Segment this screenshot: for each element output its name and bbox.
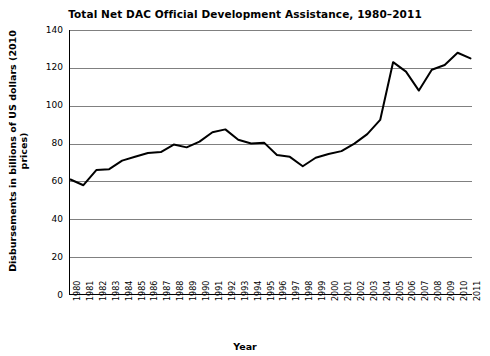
x-tick-label: 1991 [216, 281, 224, 301]
x-tick-label: 2010 [461, 281, 469, 301]
x-tick-label: 1983 [113, 281, 121, 301]
y-tick-label: 40 [27, 215, 63, 224]
y-tick-label: 20 [27, 253, 63, 262]
y-axis-label: Disbursements in billions of US dollars … [7, 26, 29, 276]
x-tick-label: 2008 [435, 281, 443, 301]
chart-title: Total Net DAC Official Development Assis… [0, 8, 490, 20]
chart-figure: Total Net DAC Official Development Assis… [0, 0, 490, 356]
x-tick-label: 2007 [422, 281, 430, 301]
x-tick-label: 1988 [177, 281, 185, 301]
x-tick-label: 1982 [100, 281, 108, 301]
x-tick-label: 1997 [293, 281, 301, 301]
x-tick-label: 1994 [255, 281, 263, 301]
x-tick-label: 2011 [474, 281, 482, 301]
x-tick-label: 1985 [139, 281, 147, 301]
x-tick-label: 1999 [319, 281, 327, 301]
x-tick-label: 2002 [358, 281, 366, 301]
y-tick-label: 140 [27, 26, 63, 35]
x-tick-label: 2004 [384, 281, 392, 301]
x-tick-label: 1998 [306, 281, 314, 301]
x-tick-label: 1986 [151, 281, 159, 301]
x-tick-label: 1993 [242, 281, 250, 301]
gridlines [69, 31, 472, 258]
x-tick-label: 1990 [203, 281, 211, 301]
x-tick-label: 1992 [229, 281, 237, 301]
x-tick-label: 2000 [332, 281, 340, 301]
x-tick-label: 1996 [280, 281, 288, 301]
x-tick-label: 1980 [74, 281, 82, 301]
x-tick-label: 1995 [268, 281, 276, 301]
x-tick-label: 1989 [190, 281, 198, 301]
x-tick-label: 2001 [345, 281, 353, 301]
x-tick-label: 1981 [87, 281, 95, 301]
y-tick-label: 80 [27, 139, 63, 148]
y-tick-label: 0 [27, 291, 63, 300]
x-tick-label: 2003 [371, 281, 379, 301]
line-chart-svg [69, 30, 472, 295]
y-tick-label: 120 [27, 63, 63, 72]
x-tick-label: 2006 [409, 281, 417, 301]
x-tick-label: 1984 [126, 281, 134, 301]
x-tick-label: 2005 [397, 281, 405, 301]
x-tick-label: 1987 [164, 281, 172, 301]
plot-area: 020406080100120140 198019811982198319841… [69, 30, 472, 295]
x-tick-label: 2009 [448, 281, 456, 301]
x-axis-label: Year [0, 341, 490, 352]
y-tick-label: 60 [27, 177, 63, 186]
data-series-line [71, 53, 471, 186]
y-tick-label: 100 [27, 101, 63, 110]
